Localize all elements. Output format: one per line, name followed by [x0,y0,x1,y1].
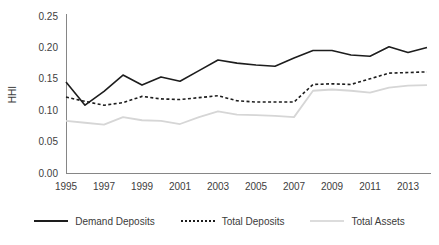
y-tick-label: 0.20 [39,42,59,53]
y-axis-title: HHI [7,86,18,103]
y-tick-label: 0.15 [39,73,59,84]
axis-lines [66,14,431,173]
y-axis-tick-labels: 0.250.200.150.100.050.00 [39,11,59,179]
x-tick-label: 1999 [131,181,154,192]
series-group [66,47,427,125]
line-swatch-icon [34,220,68,222]
legend-item-label: Demand Deposits [75,216,154,227]
series-line-total-assets [66,85,427,125]
legend-item[interactable]: Total Assets [310,216,404,227]
legend-item[interactable]: Total Deposits [181,216,285,227]
x-tick-label: 2001 [169,181,192,192]
legend-item[interactable]: Demand Deposits [34,216,154,227]
legend-item-label: Total Assets [351,216,404,227]
x-tick-label: 2009 [321,181,344,192]
x-tick-label: 1997 [93,181,116,192]
y-tick-label: 0.25 [39,11,59,22]
x-tick-label: 2003 [207,181,230,192]
y-tick-label: 0.05 [39,136,59,147]
chart-figure: 0.250.200.150.100.050.00 199519971999200… [0,0,439,245]
x-tick-label: 2007 [283,181,306,192]
x-tick-label: 2005 [245,181,268,192]
legend-item-label: Total Deposits [222,216,285,227]
x-tick-label: 1995 [55,181,78,192]
series-line-demand-deposits [66,47,427,105]
line-swatch-icon [181,220,215,222]
x-tick-label: 2011 [359,181,381,192]
y-tick-label: 0.00 [39,168,59,179]
line-chart-svg: 0.250.200.150.100.050.00 199519971999200… [0,0,439,200]
y-tick-label: 0.10 [39,105,59,116]
x-axis-tick-labels: 1995199719992001200320052007200920112013 [55,181,420,192]
chart-legend: Demand DepositsTotal DepositsTotal Asset… [0,206,439,236]
x-tick-label: 2013 [397,181,420,192]
plot-area: 0.250.200.150.100.050.00 199519971999200… [0,0,439,200]
line-swatch-icon [310,220,344,222]
